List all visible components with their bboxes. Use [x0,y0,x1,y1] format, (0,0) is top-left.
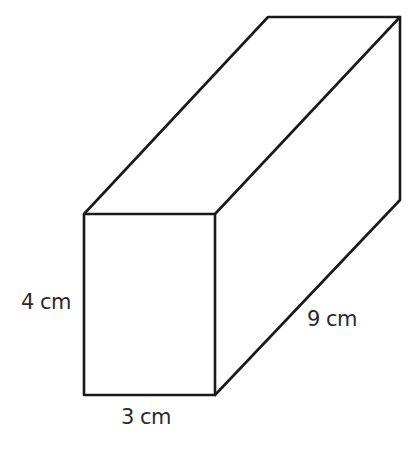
length-label: 9 cm [307,307,357,331]
top-face [84,17,400,214]
cuboid-diagram: 4 cm 3 cm 9 cm [0,0,409,450]
front-face [84,214,215,395]
width-label: 3 cm [121,405,171,429]
right-face [215,17,400,395]
height-label: 4 cm [21,290,71,314]
cuboid-drawing [0,0,409,450]
